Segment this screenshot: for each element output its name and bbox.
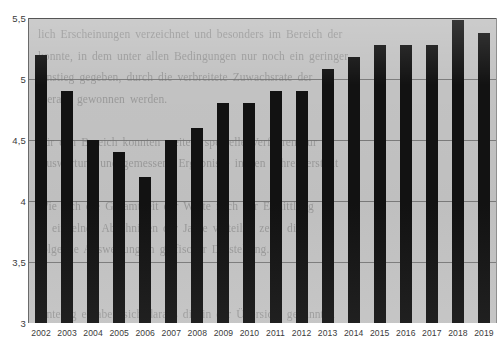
bar-2018 — [452, 20, 464, 323]
y-tick-label: 3,5 — [2, 257, 26, 268]
bar-2011 — [270, 91, 282, 323]
bar-2017 — [426, 45, 438, 323]
bar-2007 — [165, 140, 177, 323]
bar-2006 — [139, 177, 151, 323]
bar-2010 — [243, 103, 255, 323]
bar-2009 — [217, 103, 229, 323]
bar-2002 — [35, 55, 47, 323]
x-tick-label-2019: 2019 — [467, 328, 501, 338]
plot-area: lich Erscheinungen verzeichnet und beson… — [28, 18, 497, 323]
bar-2016 — [400, 45, 412, 323]
bar-2004 — [87, 140, 99, 323]
bar-2008 — [191, 128, 203, 323]
bar-2014 — [348, 57, 360, 323]
bar-2019 — [478, 33, 490, 323]
bar-2015 — [374, 45, 386, 323]
y-tick-label: 5,5 — [2, 13, 26, 24]
bar-2012 — [296, 91, 308, 323]
x-axis-tick-labels: 2002200320042005200620072008200920102011… — [28, 328, 497, 344]
y-axis-line — [28, 18, 29, 323]
y-tick-label: 5 — [2, 74, 26, 85]
bar-2005 — [113, 152, 125, 323]
y-tick-label: 4 — [2, 196, 26, 207]
plot-top-border — [28, 18, 497, 19]
y-tick-label: 3 — [2, 318, 26, 329]
bar-2013 — [322, 69, 334, 323]
plot-right-border — [496, 18, 497, 323]
bar-2003 — [61, 91, 73, 323]
y-tick-label: 4,5 — [2, 135, 26, 146]
y-axis-tick-labels: 5,554,543,53 — [0, 0, 26, 348]
bar-chart-figure: lich Erscheinungen verzeichnet und beson… — [0, 0, 503, 348]
